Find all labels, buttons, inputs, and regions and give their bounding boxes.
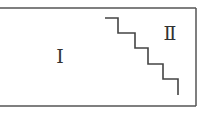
region-2-label: Ⅱ (164, 23, 177, 44)
region-1-label: Ⅰ (56, 46, 64, 67)
region-diagram: Ⅰ Ⅱ (0, 0, 201, 117)
